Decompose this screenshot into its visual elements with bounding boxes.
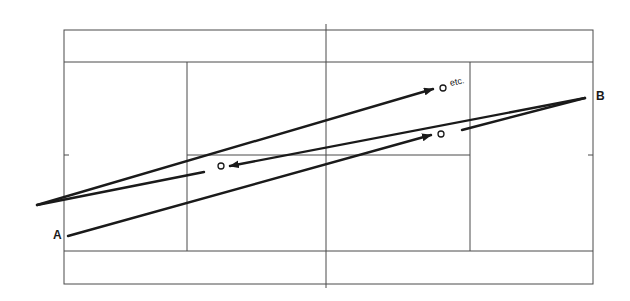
shot-3-return-segment — [37, 172, 204, 205]
ball-3-icon — [440, 85, 446, 91]
point-a-label: A — [53, 228, 62, 242]
balls — [218, 85, 446, 169]
court-lines — [64, 24, 593, 288]
court-outer-boundary — [64, 30, 593, 284]
shot-2-return-segment — [462, 98, 585, 130]
tennis-court-diagram — [0, 0, 630, 301]
shot-3-path — [37, 89, 433, 205]
ball-2-icon — [218, 163, 224, 169]
shot-1-path — [68, 135, 431, 236]
shot-paths — [37, 89, 585, 236]
ball-1-icon — [438, 131, 444, 137]
point-b-label: B — [596, 89, 605, 103]
